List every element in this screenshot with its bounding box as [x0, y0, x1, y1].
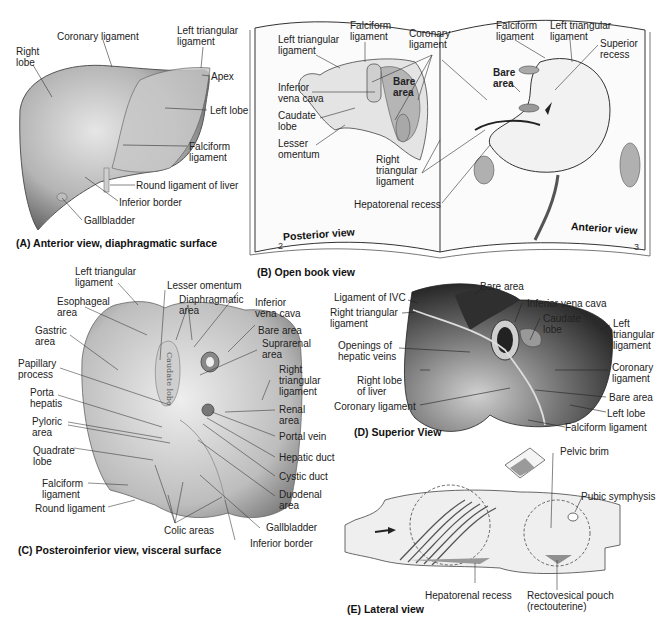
- caption-panel-c: (C) Posteroinferior view, visceral surfa…: [18, 544, 221, 556]
- label-d-caudate-lobe: Caudate lobe: [543, 313, 581, 335]
- label-gallbladder: Gallbladder: [84, 215, 135, 226]
- label-b-superior-recess: Superior recess: [600, 38, 638, 60]
- label-d-bare-area-top: Bare area: [480, 281, 524, 292]
- label-falciform-ligament: Falciform ligament: [189, 141, 230, 163]
- label-c-left-triangular-ligament: Left triangular ligament: [75, 266, 136, 288]
- label-c-caudate-lobe-on-organ: Caudate lobe: [165, 352, 174, 406]
- label-c-inferior-border: Inferior border: [250, 538, 313, 549]
- label-c-suprarenal-area: Suprarenal area: [262, 338, 311, 360]
- label-apex: Apex: [211, 71, 234, 82]
- label-e-pelvic-brim: Pelvic brim: [560, 446, 609, 457]
- panel-c-liver-illustration: [58, 283, 302, 540]
- label-b-falciform-ligament: Falciform ligament: [350, 20, 391, 42]
- label-round-ligament-of-liver: Round ligament of liver: [136, 180, 238, 191]
- label-c-lesser-omentum: Lesser omentum: [167, 280, 241, 291]
- label-left-triangular-ligament: Left triangular ligament: [177, 25, 238, 47]
- label-c-right-triangular-ligament: Right triangular ligament: [279, 364, 321, 397]
- label-b-caudate-lobe: Caudate lobe: [278, 110, 316, 132]
- label-d-openings-of-hepatic-veins: Openings of hepatic veins: [338, 340, 396, 362]
- label-d-falciform-ligament: Falciform ligament: [565, 422, 647, 433]
- label-c-duodenal-area: Duodenal area: [279, 489, 322, 511]
- label-d-coronary-ligament-right: Coronary ligament: [612, 362, 653, 384]
- label-b-left-triangular-ligament: Left triangular ligament: [278, 34, 339, 56]
- label-c-papillary-process: Papillary process: [18, 358, 56, 380]
- label-c-falciform-ligament: Falciform ligament: [42, 478, 83, 500]
- label-c-gallbladder: Gallbladder: [266, 522, 317, 533]
- label-b-inferior-vena-cava: Inferior vena cava: [278, 82, 324, 104]
- label-c-pyloric-area: Pyloric area: [32, 416, 62, 438]
- label-c-hepatic-duct: Hepatic duct: [279, 452, 335, 463]
- label-c-renal-area: Renal area: [279, 404, 305, 426]
- left-page-number: 2: [278, 241, 283, 251]
- label-c-gastric-area: Gastric area: [35, 325, 67, 347]
- label-b-right-falciform-ligament: Falciform ligament: [496, 20, 537, 42]
- label-coronary-ligament: Coronary ligament: [57, 31, 139, 42]
- label-d-left-lobe: Left lobe: [607, 408, 645, 419]
- label-c-diaphragmatic-area: Diaphragmatic area: [179, 294, 243, 316]
- label-b-coronary-ligament: Coronary ligament: [409, 28, 450, 50]
- label-e-hepatorenal-recess: Hepatorenal recess: [425, 590, 512, 601]
- label-e-pubic-symphysis: Pubic symphysis: [581, 491, 655, 502]
- label-d-inferior-vena-cava: Inferior vena cava: [527, 298, 607, 309]
- label-b-lesser-omentum: Lesser omentum: [278, 138, 320, 160]
- caption-panel-a: (A) Anterior view, diaphragmatic surface: [16, 237, 217, 249]
- label-b-hepatorenal-recess: Hepatorenal recess: [354, 199, 441, 210]
- label-b-bare-area-posterior: Bare area: [393, 76, 415, 98]
- label-c-round-ligament: Round ligament: [35, 503, 105, 514]
- label-right-lobe: Right lobe: [16, 46, 39, 68]
- label-d-bare-area-bottom: Bare area: [609, 392, 653, 403]
- label-c-colic-areas: Colic areas: [164, 525, 214, 536]
- caption-panel-e: (E) Lateral view: [347, 603, 424, 615]
- label-c-portal-vein: Portal vein: [279, 431, 326, 442]
- label-c-porta-hepatis: Porta hepatis: [30, 387, 62, 409]
- label-d-ligament-of-ivc: Ligament of IVC: [334, 292, 406, 303]
- label-d-right-triangular-ligament: Right triangular ligament: [330, 307, 398, 329]
- label-b-right-triangular-ligament: Right triangular ligament: [376, 154, 418, 187]
- label-d-right-lobe-of-liver: Right lobe of liver: [357, 375, 402, 397]
- label-b-bare-area-anterior: Bare area: [493, 67, 515, 89]
- right-page-number: 3: [634, 242, 639, 252]
- label-c-inferior-vena-cava: Inferior vena cava: [255, 297, 301, 319]
- label-e-rectovesical-pouch: Rectovesical pouch (rectouterine): [527, 590, 614, 612]
- label-c-quadrate-lobe: Quadrate lobe: [33, 445, 75, 467]
- label-c-cystic-duct: Cystic duct: [279, 471, 328, 482]
- label-c-esophageal-area: Esophageal area: [57, 296, 110, 318]
- panel-e-lateral-view-illustration: [345, 448, 620, 590]
- caption-panel-b: (B) Open book view: [257, 266, 355, 278]
- label-d-coronary-ligament-left: Coronary ligament: [334, 401, 416, 412]
- label-c-bare-area: Bare area: [258, 325, 302, 336]
- label-left-lobe: Left lobe: [210, 105, 248, 116]
- caption-panel-d: (D) Superior View: [354, 426, 441, 438]
- label-d-left-triangular-ligament: Left triangular ligament: [613, 318, 655, 351]
- label-inferior-border: Inferior border: [119, 197, 182, 208]
